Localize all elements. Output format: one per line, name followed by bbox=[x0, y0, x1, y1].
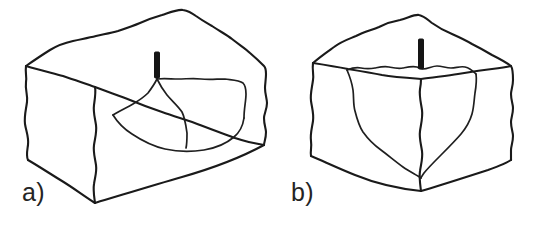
borehole-marker-icon bbox=[419, 39, 424, 69]
panel-a-drawing bbox=[25, 10, 267, 203]
crater-b-right-wall bbox=[421, 74, 476, 178]
block-a-right-bottom-edge bbox=[95, 145, 264, 203]
block-b-left-bottom-edge bbox=[311, 156, 421, 191]
block-a-front-vertical-edge bbox=[94, 87, 97, 203]
block-b-outline bbox=[313, 15, 513, 160]
block-b-right-bottom-edge bbox=[421, 160, 511, 191]
crater-b-left-wall bbox=[347, 70, 421, 178]
block-b-left-vertical-edge bbox=[311, 63, 314, 156]
block-b-top-left-edge bbox=[313, 63, 421, 79]
block-a-outline bbox=[26, 10, 267, 145]
block-b-front-vertical-edge bbox=[420, 79, 423, 191]
panel-label-b: b) bbox=[291, 180, 314, 205]
block-a-left-vertical-edge bbox=[25, 66, 28, 160]
crater-a-interior-fracture bbox=[157, 79, 187, 148]
block-a-top-front-edge bbox=[26, 66, 264, 145]
borehole-marker-icon bbox=[155, 52, 160, 78]
panel-b-drawing bbox=[311, 15, 513, 191]
figure-container: a) b) bbox=[0, 0, 539, 226]
block-diagram-svg bbox=[0, 0, 539, 226]
panel-label-a: a) bbox=[22, 180, 45, 205]
